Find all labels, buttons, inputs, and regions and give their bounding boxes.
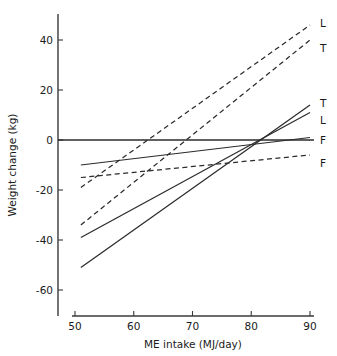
x-tick-label-90: 90 bbox=[303, 320, 316, 332]
y-tick-label-20: 20 bbox=[40, 84, 53, 96]
series-line-T-solid bbox=[81, 105, 310, 268]
series-label-F-solid: F bbox=[320, 134, 326, 146]
y-tick-label--60: -60 bbox=[36, 284, 53, 296]
series-label-T-solid: T bbox=[319, 97, 327, 109]
series-line-T-dashed bbox=[81, 40, 310, 225]
x-axis-tick-labels: 5060708090 bbox=[68, 320, 316, 332]
series-label-L-solid: L bbox=[320, 114, 326, 126]
series-label-L-dashed: L bbox=[320, 17, 326, 29]
y-axis-ticks bbox=[58, 40, 63, 290]
series-lines-group bbox=[81, 25, 310, 268]
series-line-F-dashed bbox=[81, 155, 310, 178]
y-tick-label--20: -20 bbox=[36, 184, 53, 196]
x-axis-ticks bbox=[75, 311, 310, 316]
y-axis-tick-labels: 40200-20-40-60 bbox=[36, 34, 53, 296]
y-tick-label--40: -40 bbox=[36, 234, 53, 246]
series-end-labels-group: LTTLFF bbox=[319, 17, 327, 169]
series-label-F-dashed: F bbox=[320, 157, 326, 169]
x-tick-label-50: 50 bbox=[68, 320, 81, 332]
y-axis-title: Weight change (kg) bbox=[6, 114, 18, 217]
series-line-L-dashed bbox=[81, 25, 310, 188]
chart-container: 40200-20-40-60 5060708090 LTTLFF ME inta… bbox=[0, 0, 337, 356]
x-tick-label-60: 60 bbox=[127, 320, 140, 332]
y-tick-label-0: 0 bbox=[46, 134, 53, 146]
x-tick-label-80: 80 bbox=[245, 320, 258, 332]
weight-change-vs-me-intake-chart: 40200-20-40-60 5060708090 LTTLFF ME inta… bbox=[0, 0, 337, 356]
series-label-T-dashed: T bbox=[319, 42, 327, 54]
series-line-L-solid bbox=[81, 113, 310, 238]
x-tick-label-70: 70 bbox=[186, 320, 199, 332]
y-tick-label-40: 40 bbox=[40, 34, 53, 46]
series-line-F-solid bbox=[81, 138, 310, 166]
x-axis-title: ME intake (MJ/day) bbox=[144, 338, 242, 350]
